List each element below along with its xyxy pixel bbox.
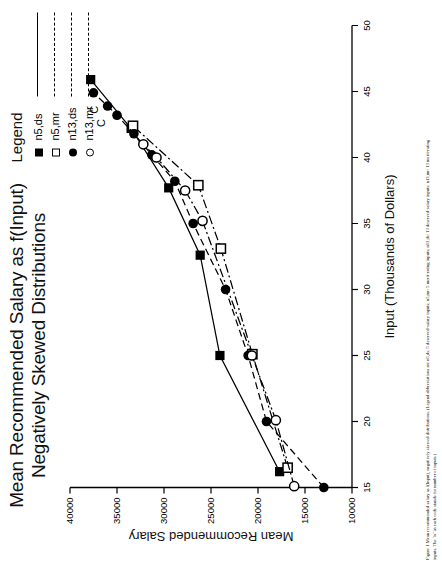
y-tick-label: 25000	[205, 497, 216, 523]
x-tick-label: 20	[361, 416, 372, 427]
marker-open-circle	[290, 481, 299, 490]
x-axis-label: Input (Thousands of Dollars)	[382, 174, 397, 338]
series-line-n13mr	[143, 144, 294, 486]
marker-filled-circle	[262, 416, 272, 426]
marker-open-circle	[247, 350, 256, 359]
y-tick-label: 30000	[158, 497, 169, 523]
marker-open-circle	[271, 415, 280, 424]
y-tick-label: 15000	[299, 497, 310, 523]
figure-caption: Figure 1 Mean recommended salary as f(In…	[425, 140, 442, 560]
point-annotation: C	[88, 105, 100, 113]
x-tick-label: 50	[361, 20, 372, 31]
y-tick-label: 10000	[346, 497, 357, 523]
x-tick-label: 25	[361, 350, 372, 361]
x-tick-label: 30	[361, 284, 372, 295]
point-annotation: C	[95, 118, 107, 126]
x-tick-label: 45	[361, 86, 372, 97]
y-tick-label: 20000	[252, 497, 263, 523]
marker-filled-circle	[89, 88, 99, 98]
y-tick-label: 35000	[111, 497, 122, 523]
x-tick-label: 15	[361, 482, 372, 493]
marker-filled-circle	[112, 110, 122, 120]
marker-filled-square	[215, 350, 224, 359]
marker-filled-circle	[170, 176, 180, 186]
series-line-n5ds	[91, 79, 280, 471]
marker-filled-square	[196, 250, 205, 259]
y-tick-label: 40000	[64, 497, 75, 523]
marker-open-circle	[152, 152, 161, 161]
marker-filled-square	[86, 75, 95, 84]
marker-open-circle	[198, 216, 207, 225]
x-tick-label: 40	[361, 152, 372, 163]
caption-label: Figure 1	[425, 545, 430, 561]
marker-open-square	[216, 243, 225, 252]
y-axis-label: Mean Recommended Salary	[128, 528, 293, 543]
marker-open-circle	[139, 139, 148, 148]
marker-open-square	[194, 180, 203, 189]
marker-open-circle	[181, 185, 190, 194]
caption-body: Mean recommended salary as f(Input), neg…	[425, 140, 437, 560]
x-tick-label: 35	[361, 218, 372, 229]
marker-filled-circle	[188, 218, 198, 228]
marker-open-square	[128, 121, 137, 130]
series-line-n13ds	[94, 92, 324, 487]
